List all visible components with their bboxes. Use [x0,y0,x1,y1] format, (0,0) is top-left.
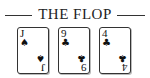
page-title: THE FLOP [32,5,118,23]
card-rank: 9 [81,62,87,73]
card-2: 9 ♣ ♣ 9 [58,27,90,74]
card-3: 4 ♣ ♣ 4 [99,27,131,74]
card-1: J ♠ ♠ J [17,27,49,74]
title-rule-right [117,15,145,16]
title-rule-left [5,15,32,16]
card-rank: 4 [122,62,128,73]
club-icon: ♣ [61,38,70,48]
card-rank: J [41,62,45,73]
title-row: THE FLOP [0,3,150,21]
spade-icon: ♠ [20,38,29,48]
club-icon: ♣ [102,38,111,48]
